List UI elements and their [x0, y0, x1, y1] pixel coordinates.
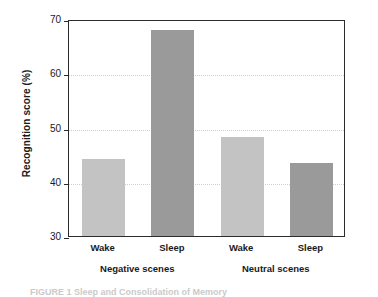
y-tick-label-30: 30 — [33, 231, 61, 242]
y-tick-mark-40 — [64, 184, 69, 185]
group-label-negative: Negative scenes — [67, 263, 207, 274]
bar-neutral-wake — [221, 137, 264, 236]
gridline-50 — [69, 130, 344, 131]
x-label-negative-sleep: Sleep — [132, 242, 212, 253]
x-label-negative-wake: Wake — [63, 242, 143, 253]
bar-negative-sleep — [151, 30, 194, 236]
y-tick-mark-70 — [64, 21, 69, 22]
y-tick-mark-60 — [64, 75, 69, 76]
x-label-neutral-sleep: Sleep — [270, 242, 350, 253]
y-tick-mark-30 — [64, 238, 69, 239]
y-tick-label-70: 70 — [33, 14, 61, 25]
y-tick-mark-50 — [64, 130, 69, 131]
bar-neutral-sleep — [290, 163, 333, 236]
group-label-neutral: Neutral scenes — [206, 263, 346, 274]
plot-area: 3040506070 — [68, 20, 345, 237]
y-tick-label-40: 40 — [33, 177, 61, 188]
y-axis-title: Recognition score (%) — [21, 34, 32, 214]
figure-caption: FIGURE 1 Sleep and Consolidation of Memo… — [30, 287, 227, 297]
y-tick-label-50: 50 — [33, 123, 61, 134]
gridline-60 — [69, 75, 344, 76]
bar-negative-wake — [82, 159, 125, 236]
x-label-neutral-wake: Wake — [201, 242, 281, 253]
y-tick-label-60: 60 — [33, 68, 61, 79]
